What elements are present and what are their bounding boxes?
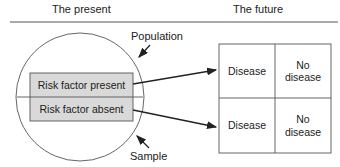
sample-label: Sample: [130, 151, 167, 162]
sample-pointer-arrow: [137, 136, 149, 148]
cell-absent-disease: Disease: [219, 98, 275, 153]
risk-factor-present: Risk factor present: [30, 73, 133, 97]
population-label: Population: [131, 31, 183, 42]
header-present: The present: [52, 4, 111, 15]
arrow-absent-to-outcome: [133, 110, 216, 127]
population-pointer-arrow: [139, 45, 150, 57]
cell-present-no-disease: No disease: [275, 44, 331, 98]
arrow-present-to-outcome: [133, 70, 216, 84]
cell-absent-no-disease: No disease: [275, 98, 331, 153]
header-future: The future: [233, 4, 283, 15]
cell-present-disease: Disease: [219, 44, 275, 98]
risk-factor-absent: Risk factor absent: [30, 97, 133, 121]
